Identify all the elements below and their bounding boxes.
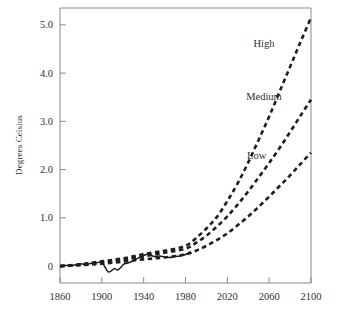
x-tick-label: 2020 (217, 291, 238, 302)
x-tick-label: 1980 (175, 291, 196, 302)
x-tick-label: 1940 (133, 291, 154, 302)
y-tick-label: 3.0 (40, 116, 53, 127)
series-annotation-high: High (253, 38, 275, 49)
series-annotations: HighMediumLow (246, 38, 282, 161)
x-tick-label: 1900 (91, 291, 112, 302)
x-tick-label: 2100 (301, 291, 322, 302)
plot-frame (60, 8, 311, 283)
chart-canvas: 01.02.03.04.05.0 18601900194019802020206… (0, 0, 338, 320)
x-tick-label: 2060 (259, 291, 280, 302)
x-axis: 1860190019401980202020602100 (50, 277, 322, 302)
series-line-high (60, 18, 311, 266)
y-axis-title: Degrees Celsius (14, 115, 24, 175)
y-tick-label: 2.0 (40, 164, 53, 175)
series-lines (60, 18, 311, 272)
y-tick-label: 4.0 (40, 68, 53, 79)
x-tick-label: 1860 (50, 291, 71, 302)
y-tick-label: 1.0 (40, 212, 53, 223)
series-annotation-low: Low (247, 150, 267, 161)
y-axis: 01.02.03.04.05.0 (40, 19, 66, 271)
climate-projection-chart: 01.02.03.04.05.0 18601900194019802020206… (0, 0, 338, 320)
series-line-medium (60, 100, 311, 266)
series-line-low (60, 153, 311, 266)
y-tick-label: 5.0 (40, 19, 53, 30)
y-tick-label: 0 (48, 261, 53, 272)
series-annotation-medium: Medium (246, 91, 282, 102)
